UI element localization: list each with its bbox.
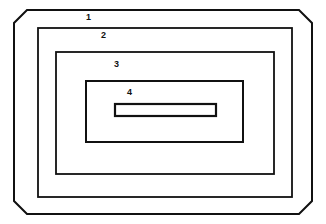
third-frame-outline <box>56 52 274 174</box>
inner-frame-outline <box>86 81 243 142</box>
callout-label-1: 1 <box>86 13 91 22</box>
slot-outline <box>115 104 216 116</box>
outer-housing-outline <box>14 10 312 214</box>
callout-label-4: 4 <box>127 88 132 97</box>
nested-rectangles-drawing <box>0 0 326 224</box>
second-frame-outline <box>38 28 292 197</box>
callout-label-3: 3 <box>114 60 119 69</box>
callout-label-2: 2 <box>101 31 106 40</box>
figure-canvas: 1 2 3 4 <box>0 0 326 224</box>
